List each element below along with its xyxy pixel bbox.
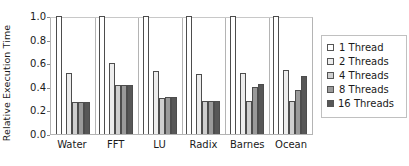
y-tick-mark — [47, 88, 50, 89]
legend-item: 1 Thread — [327, 40, 402, 54]
group-separator — [269, 18, 270, 134]
legend-label: 16 Threads — [338, 98, 394, 109]
y-tick-mark — [47, 111, 50, 112]
group-separator — [138, 18, 139, 134]
legend-swatch-icon — [327, 44, 334, 51]
bar-group — [95, 18, 139, 134]
bar-group — [269, 18, 313, 134]
x-tick-label: LU — [138, 138, 182, 154]
bar-group — [138, 18, 182, 134]
bar-group — [51, 18, 95, 134]
bar — [230, 16, 236, 134]
x-tick-label: Barnes — [225, 138, 269, 154]
bar — [214, 101, 220, 134]
y-axis-ticks: 1.00.80.60.40.20.0 — [16, 0, 46, 166]
bar — [301, 76, 307, 134]
bar — [84, 102, 90, 134]
legend-swatch-icon — [327, 58, 334, 65]
legend-label: 2 Threads — [339, 56, 389, 67]
bar — [171, 97, 177, 134]
group-separator — [182, 18, 183, 134]
bar-group — [182, 18, 226, 134]
y-tick-mark — [47, 64, 50, 65]
legend-swatch-icon — [327, 72, 334, 79]
legend-item: 8 Threads — [327, 82, 402, 96]
legend-label: 1 Thread — [339, 42, 384, 53]
bar — [99, 16, 105, 134]
bar-group — [225, 18, 269, 134]
bar — [127, 85, 133, 134]
plot-area — [50, 17, 313, 135]
x-tick-label: Water — [50, 138, 94, 154]
legend-item: 16 Threads — [327, 96, 402, 110]
y-tick-label: 0.2 — [20, 106, 46, 116]
legend-item: 4 Threads — [327, 68, 402, 82]
bar — [258, 84, 264, 134]
legend-swatch-icon — [327, 100, 334, 107]
bar-chart-figure: Relative Execution Time 1.00.80.60.40.20… — [0, 0, 409, 166]
bar-groups — [51, 18, 312, 134]
bar — [143, 16, 149, 134]
y-axis-label: Relative Execution Time — [0, 0, 14, 166]
legend-item: 2 Threads — [327, 54, 402, 68]
group-separator — [225, 18, 226, 134]
y-tick-label: 1.0 — [20, 12, 46, 22]
chart-legend: 1 Thread2 Threads4 Threads8 Threads16 Th… — [321, 35, 407, 118]
x-tick-label: Ocean — [269, 138, 313, 154]
legend-label: 4 Threads — [339, 70, 389, 81]
bar — [273, 16, 279, 134]
bar — [56, 16, 62, 134]
x-axis-ticks: WaterFFTLURadixBarnesOcean — [50, 138, 313, 154]
y-tick-mark — [47, 41, 50, 42]
group-separator — [95, 18, 96, 134]
y-tick-mark — [47, 135, 50, 136]
x-tick-label: FFT — [94, 138, 138, 154]
y-tick-mark — [47, 17, 50, 18]
y-tick-label: 0.0 — [20, 130, 46, 140]
legend-swatch-icon — [327, 86, 334, 93]
y-tick-label: 0.4 — [20, 83, 46, 93]
bar — [186, 16, 192, 134]
legend-label: 8 Threads — [339, 84, 389, 95]
y-tick-label: 0.8 — [20, 36, 46, 46]
y-tick-label: 0.6 — [20, 59, 46, 69]
x-tick-label: Radix — [181, 138, 225, 154]
